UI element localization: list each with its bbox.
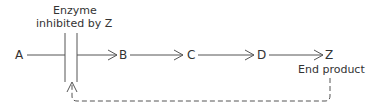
- node-b: B: [119, 49, 127, 61]
- feedback-inhibition-line: [72, 78, 330, 101]
- enzyme-label-line1: Enzyme: [53, 5, 97, 16]
- enzyme-label-line2: inhibited by Z: [36, 18, 112, 29]
- node-c: C: [187, 49, 195, 61]
- end-product-label: End product: [298, 64, 365, 75]
- node-z: Z: [325, 49, 333, 61]
- node-d: D: [257, 49, 266, 61]
- node-a: A: [15, 49, 23, 61]
